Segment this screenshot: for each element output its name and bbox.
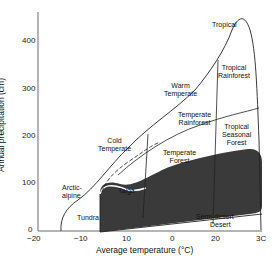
label-line: Cold: [98, 137, 131, 145]
y-tick-300: 300: [22, 84, 35, 93]
label-line: Rainforest: [218, 72, 250, 80]
label-tundra: Tundra: [77, 214, 99, 222]
label-line: Temperate: [98, 145, 131, 153]
label-line: alpine: [62, 192, 82, 200]
x-tick-2: −10: [74, 234, 88, 243]
label-line: Forest: [222, 139, 251, 147]
label-line: Temperate: [178, 111, 211, 119]
x-tick-1: −20: [27, 234, 41, 243]
label-tropical-rainforest: Tropical Rainforest: [218, 64, 250, 80]
label-taiga: Taiga: [118, 187, 135, 195]
label-warm-temperate: Warm Temperate: [164, 82, 197, 98]
label-line: Temperate: [163, 149, 196, 157]
label-line: Arctic-: [62, 184, 82, 192]
label-line: Warm: [164, 82, 197, 90]
x-tick-6: 3C: [256, 234, 266, 243]
y-tick-0: 0: [28, 225, 32, 234]
x-tick-5: 20: [211, 234, 220, 243]
label-desert: Desert: [210, 221, 231, 229]
biome-diagram: Tropical Tropical Rainforest Warm Temper…: [0, 0, 272, 260]
label-temperate-forest: Temperate Forest: [163, 149, 196, 165]
y-axis-title: Annual precipitation (cm): [0, 78, 6, 172]
y-tick-200: 200: [22, 131, 35, 140]
label-line: Tropical: [222, 123, 251, 131]
label-tropical-seasonal-forest: Tropical Seasonal Forest: [222, 123, 251, 147]
y-tick-400: 400: [22, 36, 35, 45]
label-line: Temperate: [164, 90, 197, 98]
label-temperate-rainforest: Temperate Rainforest: [178, 111, 211, 127]
x-tick-4: 0: [170, 234, 174, 243]
x-axis-title: Average temperature (°C): [96, 245, 193, 255]
y-tick-100: 100: [22, 178, 35, 187]
label-line: Forest: [163, 157, 196, 165]
label-line: Seasonal: [222, 131, 251, 139]
label-cold-temperate: Cold Temperate: [98, 137, 131, 153]
label-line: Rainforest: [178, 119, 211, 127]
label-semi-desert: Semi-desert: [196, 213, 234, 221]
x-tick-3: 10: [122, 234, 131, 243]
label-arctic-alpine: Arctic- alpine: [62, 184, 82, 200]
label-tropical: Tropical: [212, 21, 237, 29]
label-line: Tropical: [218, 64, 250, 72]
